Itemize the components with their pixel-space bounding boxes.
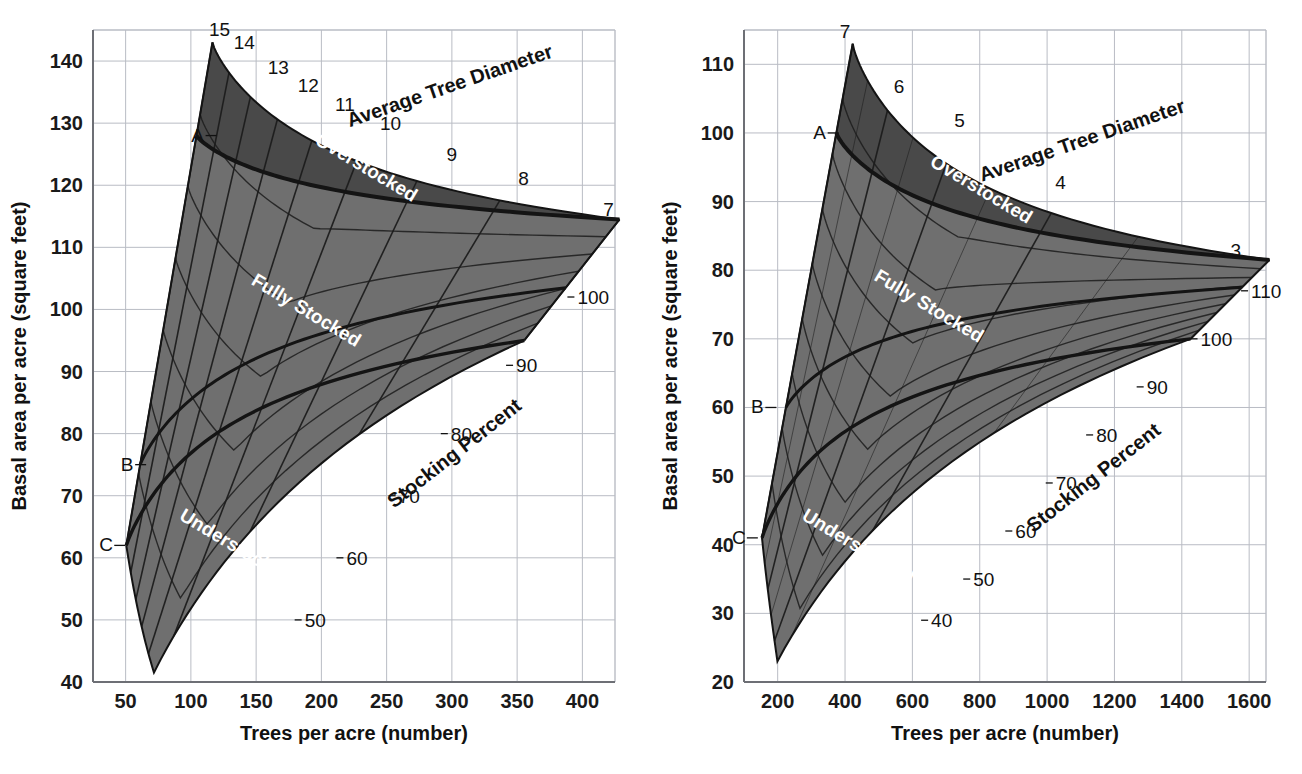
- diameter-label: 9: [447, 144, 458, 165]
- x-axis-title: Trees per acre (number): [240, 722, 468, 744]
- y-tick-label: 70: [61, 485, 83, 507]
- y-tick-label: 110: [702, 53, 734, 75]
- diameter-label: 5: [954, 110, 965, 131]
- average-tree-diameter-label: Average Tree Diameter: [344, 40, 556, 131]
- stocking-percent-label: 80: [1096, 425, 1117, 446]
- diameter-label: 7: [603, 199, 614, 220]
- chart-svg-right: 2004006008001000120014001600203040506070…: [651, 0, 1302, 774]
- stocking-percent-label: 40: [931, 610, 952, 631]
- y-tick-label: 140: [50, 50, 83, 72]
- y-tick-label: 60: [61, 547, 83, 569]
- y-tick-label: 90: [61, 361, 83, 383]
- x-tick-label: 200: [305, 690, 338, 712]
- x-tick-label: 400: [828, 690, 861, 712]
- boundary-marker-b: B: [751, 396, 764, 417]
- y-axis-title: Basal area per acre (square feet): [659, 201, 681, 510]
- y-tick-label: 50: [61, 609, 83, 631]
- y-tick-label: 100: [701, 122, 734, 144]
- boundary-marker-b: B: [121, 454, 134, 475]
- stocking-percent-label: 60: [346, 548, 367, 569]
- x-tick-label: 300: [435, 690, 468, 712]
- diameter-label: 7: [840, 21, 851, 42]
- x-tick-label: 150: [239, 690, 272, 712]
- stocking-percent-label: 100: [577, 287, 609, 308]
- diameter-label: 3: [1230, 240, 1241, 261]
- diameter-label: 12: [298, 75, 319, 96]
- diameter-label: 15: [209, 19, 230, 40]
- diameter-label: 6: [894, 76, 905, 97]
- x-tick-label: 400: [566, 690, 599, 712]
- y-tick-label: 50: [712, 465, 734, 487]
- y-tick-label: 60: [712, 396, 734, 418]
- boundary-marker-a: A: [191, 125, 204, 146]
- x-tick-label: 50: [115, 690, 137, 712]
- y-tick-label: 30: [712, 602, 734, 624]
- x-tick-label: 1400: [1160, 690, 1205, 712]
- boundary-marker-c: C: [99, 534, 113, 555]
- stocking-chart-left: 5010015020025030035040040506070809010011…: [0, 0, 651, 774]
- stocking-percent-label-title: Stocking Percent: [383, 394, 526, 512]
- x-tick-label: 200: [761, 690, 794, 712]
- y-tick-label: 40: [61, 671, 83, 693]
- y-tick-label: 40: [712, 534, 734, 556]
- y-tick-label: 130: [50, 112, 83, 134]
- x-tick-label: 350: [500, 690, 533, 712]
- y-tick-label: 70: [712, 328, 734, 350]
- chart-svg-left: 5010015020025030035040040506070809010011…: [0, 0, 651, 774]
- average-tree-diameter-label: Average Tree Diameter: [976, 94, 1188, 185]
- x-tick-label: 600: [896, 690, 929, 712]
- stocking-percent-label-title: Stocking Percent: [1022, 418, 1165, 536]
- diameter-label: 4: [1055, 172, 1066, 193]
- diameter-label: 8: [518, 168, 529, 189]
- stocking-percent-label: 90: [1147, 377, 1168, 398]
- y-tick-label: 20: [712, 671, 734, 693]
- x-tick-label: 250: [370, 690, 403, 712]
- y-tick-label: 110: [51, 236, 83, 258]
- x-tick-label: 100: [174, 690, 207, 712]
- x-axis-title: Trees per acre (number): [891, 722, 1119, 744]
- stocking-percent-label: 110: [1251, 281, 1281, 302]
- stocking-percent-label: 90: [516, 355, 537, 376]
- y-tick-label: 80: [712, 259, 734, 281]
- x-tick-label: 800: [963, 690, 996, 712]
- diameter-label: 14: [234, 32, 256, 53]
- x-tick-label: 1600: [1227, 690, 1272, 712]
- boundary-marker-a: A: [813, 122, 826, 143]
- stocking-chart-right: 2004006008001000120014001600203040506070…: [651, 0, 1302, 774]
- y-tick-label: 120: [50, 174, 83, 196]
- y-axis-title: Basal area per acre (square feet): [8, 201, 30, 510]
- chart-content: 5010015020025030035040040506070809010011…: [8, 19, 619, 744]
- stocking-percent-label: 100: [1201, 329, 1233, 350]
- y-tick-label: 80: [61, 423, 83, 445]
- chart-content: 2004006008001000120014001600203040506070…: [659, 21, 1281, 744]
- boundary-marker-c: C: [732, 527, 746, 548]
- diameter-label: 13: [268, 57, 289, 78]
- x-tick-label: 1200: [1092, 690, 1137, 712]
- x-tick-label: 1000: [1025, 690, 1070, 712]
- figure-root: 5010015020025030035040040506070809010011…: [0, 0, 1302, 774]
- stocking-percent-label: 50: [973, 569, 994, 590]
- stocking-percent-label: 50: [305, 610, 326, 631]
- y-tick-label: 100: [50, 298, 83, 320]
- y-tick-label: 90: [712, 191, 734, 213]
